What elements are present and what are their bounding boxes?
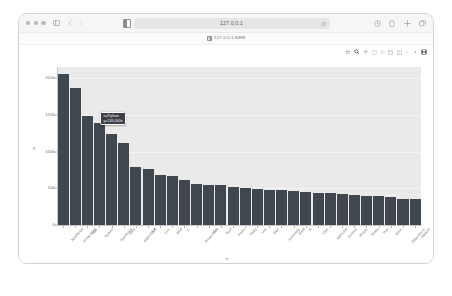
x-axis-tick-mark <box>281 226 282 228</box>
x-axis-tick-mark <box>318 226 319 228</box>
bar[interactable] <box>228 187 239 225</box>
close-window-button[interactable] <box>26 21 30 25</box>
x-axis-tick-mark <box>184 226 185 228</box>
x-axis-tick-label: Java <box>128 228 136 236</box>
bar[interactable] <box>313 193 324 225</box>
browser-toolbar-right <box>374 14 427 33</box>
address-input[interactable]: 127.0.0.1 <box>134 18 330 30</box>
maximize-window-button[interactable] <box>41 21 45 25</box>
x-axis-tick-label: Ruby <box>250 228 258 237</box>
bar[interactable] <box>94 123 105 225</box>
x-axis-tick-label: Rust <box>225 228 233 236</box>
x-axis-tick-mark <box>294 226 295 228</box>
x-axis-tick-label: R <box>309 228 313 232</box>
x-axis-tick-label: Groovy <box>348 228 358 239</box>
back-button[interactable] <box>68 20 72 26</box>
autoscale-icon[interactable] <box>413 50 418 55</box>
bar[interactable] <box>349 195 360 225</box>
sidebar-toggle-icon[interactable] <box>53 20 60 26</box>
bar-chart: 050k100k150k200k JavaScriptHTML/CSSSQLPy… <box>19 61 434 264</box>
bar[interactable] <box>397 199 408 225</box>
page-favicon <box>207 36 212 41</box>
x-axis-tick-mark <box>342 226 343 228</box>
y-axis-tick-label: 0 <box>19 223 55 227</box>
downloads-icon[interactable] <box>389 20 395 27</box>
bar[interactable] <box>215 185 226 225</box>
configure-icon[interactable] <box>397 50 402 55</box>
x-axis-tick-mark <box>148 226 149 228</box>
y-axis-tick-label: 150k <box>19 113 55 117</box>
window-controls <box>26 21 46 25</box>
data-tooltip: x=Python y=139,000s <box>100 112 125 125</box>
x-axis-tick-label: VBA <box>322 228 329 236</box>
x-axis-tick-label: Lua <box>261 228 268 235</box>
save-icon[interactable] <box>421 49 427 55</box>
bar[interactable] <box>203 185 214 225</box>
bar[interactable] <box>106 134 117 225</box>
reload-icon[interactable] <box>321 21 326 26</box>
x-axis-tick-label: Elixir <box>395 228 403 236</box>
bar[interactable] <box>252 189 263 225</box>
bar[interactable] <box>82 116 93 225</box>
x-axis-tick-label: C <box>187 228 191 232</box>
tab-overview-icon[interactable] <box>419 20 426 27</box>
bar[interactable] <box>191 184 202 225</box>
x-axis-tick-mark <box>63 226 64 228</box>
x-axis-tick-mark <box>75 226 76 228</box>
share-icon[interactable] <box>374 20 381 27</box>
reader-view-icon[interactable] <box>123 19 131 28</box>
x-axis-tick-mark <box>403 226 404 228</box>
bar[interactable] <box>179 180 190 225</box>
x-axis-tick-mark <box>136 226 137 228</box>
reset-icon[interactable] <box>405 50 410 55</box>
bar[interactable] <box>264 190 275 225</box>
x-axis-tick-label: Kotlin <box>238 228 247 237</box>
x-axis-tick-mark <box>269 226 270 228</box>
pan-icon[interactable] <box>363 49 369 55</box>
screenshot-root: 127.0.0.1 <box>0 0 452 296</box>
x-axis-tick-mark <box>257 226 258 228</box>
bar[interactable] <box>167 176 178 225</box>
navigation-arrows <box>68 20 83 26</box>
crosshair-icon[interactable] <box>372 50 377 55</box>
bar[interactable] <box>410 199 421 225</box>
bar[interactable] <box>143 169 154 225</box>
x-axis-tick-label: Dart <box>274 228 281 235</box>
bar[interactable] <box>288 191 299 225</box>
bar[interactable] <box>337 194 348 225</box>
minimize-window-button[interactable] <box>34 21 38 25</box>
x-axis-tick-mark <box>245 226 246 228</box>
bar[interactable] <box>118 143 129 225</box>
bar[interactable] <box>325 193 336 225</box>
zoom-icon[interactable] <box>354 49 360 55</box>
bar[interactable] <box>130 167 141 225</box>
bar[interactable] <box>58 74 69 225</box>
bar[interactable] <box>361 196 372 225</box>
bar[interactable] <box>240 188 251 225</box>
bar[interactable] <box>276 190 287 225</box>
bar[interactable] <box>300 192 311 225</box>
bookmark-label[interactable]: 127.0.0.1:8888 <box>214 36 245 40</box>
bar[interactable] <box>373 196 384 225</box>
browser-titlebar: 127.0.0.1 <box>19 14 433 33</box>
bar[interactable] <box>155 175 166 225</box>
x-axis-tick-mark <box>221 226 222 228</box>
bar[interactable] <box>70 88 81 225</box>
x-axis-tick-mark <box>415 226 416 228</box>
x-axis-tick-mark <box>99 226 100 228</box>
y-axis-title: y <box>33 146 35 150</box>
new-tab-icon[interactable] <box>404 20 411 27</box>
x-axis-tick-mark <box>172 226 173 228</box>
x-axis-tick-mark <box>209 226 210 228</box>
y-axis-tick-label: 100k <box>19 149 55 153</box>
bar[interactable] <box>385 197 396 225</box>
tooltip-y-line: y=139,000s <box>103 119 122 123</box>
x-axis-tick-label: Scala <box>371 228 380 237</box>
y-axis-tick-label: 50k <box>19 186 55 190</box>
lasso-icon[interactable] <box>380 50 385 55</box>
home-icon[interactable] <box>345 49 351 55</box>
box-select-icon[interactable] <box>388 50 393 55</box>
forward-button[interactable] <box>79 20 83 26</box>
x-axis-title: x <box>19 257 434 261</box>
y-axis-tick-label: 200k <box>19 76 55 80</box>
